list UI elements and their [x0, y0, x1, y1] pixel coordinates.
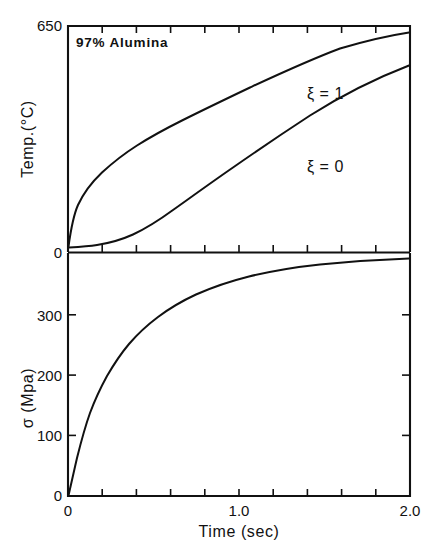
xtick-2: 2.0 — [400, 502, 421, 519]
curve-xi-1 — [69, 33, 410, 247]
curve-sigma — [69, 259, 410, 496]
top-panel: 650 0 Temp.(°C) 97% Alumina ξ = 1 ξ = 0 — [19, 17, 410, 261]
xtick-0: 0 — [64, 502, 72, 519]
top-ytick-650: 650 — [37, 17, 62, 34]
bottom-left-axis-ticks — [68, 315, 76, 436]
xtick-1: 1.0 — [229, 502, 250, 519]
curve-label-xi-1: ξ = 1 — [307, 85, 344, 103]
material-annotation: 97% Alumina — [76, 35, 168, 50]
top-ytick-0: 0 — [54, 244, 62, 261]
bottom-right-axis-ticks — [402, 315, 410, 436]
curve-label-xi-0: ξ = 0 — [307, 158, 344, 176]
bottom-ytick-0: 0 — [54, 487, 62, 504]
two-panel-chart: 650 0 Temp.(°C) 97% Alumina ξ = 1 ξ = 0 — [0, 0, 437, 544]
x-axis-title: Time (sec) — [199, 523, 280, 540]
bottom-ytick-100: 100 — [37, 427, 62, 444]
top-panel-frame — [68, 26, 410, 252]
bottom-y-axis-title: σ (Mpa) — [19, 368, 36, 428]
bottom-panel-frame — [68, 253, 410, 496]
top-panel-bottom-ticks — [102, 245, 376, 252]
bottom-ytick-300: 300 — [37, 307, 62, 324]
bottom-ytick-200: 200 — [37, 367, 62, 384]
figure-container: 650 0 Temp.(°C) 97% Alumina ξ = 1 ξ = 0 — [0, 0, 437, 544]
bottom-panel: 0 100 200 300 σ (Mpa) 0 1.0 2.0 Time (se… — [19, 253, 420, 540]
top-y-axis-title: Temp.(°C) — [19, 100, 36, 178]
